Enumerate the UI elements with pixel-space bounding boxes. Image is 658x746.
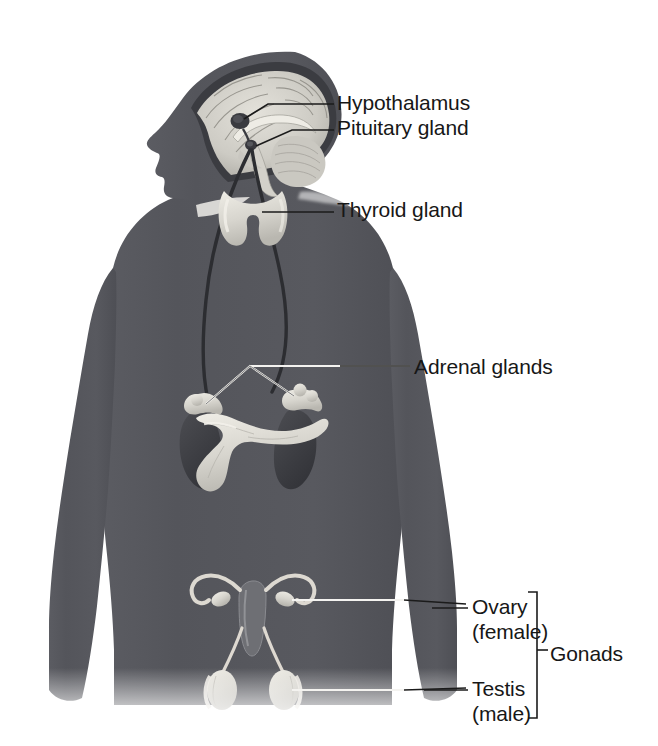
label-adrenal-glands: Adrenal glands <box>414 354 553 379</box>
label-gonads: Gonads <box>550 641 623 666</box>
label-ovary-sex: (female) <box>472 619 548 644</box>
label-thyroid-gland: Thyroid gland <box>337 197 463 222</box>
label-pituitary-gland: Pituitary gland <box>337 115 469 140</box>
pituitary-highlight <box>247 142 253 147</box>
label-hypothalamus: Hypothalamus <box>337 90 470 115</box>
label-ovary: Ovary <box>472 594 528 619</box>
adrenal-lobe-b <box>306 390 318 402</box>
endocrine-system-figure: Hypothalamus Pituitary gland Thyroid gla… <box>0 0 658 746</box>
hypothalamus-highlight <box>233 115 243 123</box>
label-testis-sex: (male) <box>472 701 531 726</box>
adrenal-lobe-a <box>294 384 307 397</box>
adrenal-lobe-c <box>191 394 203 406</box>
label-testis: Testis <box>472 676 525 701</box>
anatomy-illustration <box>0 0 658 746</box>
